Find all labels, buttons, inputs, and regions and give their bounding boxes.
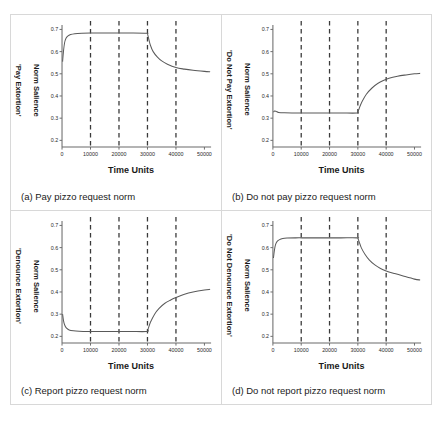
svg-text:0: 0 <box>271 151 274 157</box>
svg-text:10000: 10000 <box>83 346 98 352</box>
svg-text:0.5: 0.5 <box>51 266 58 272</box>
series-a <box>63 33 211 72</box>
panel-c: 'Denounce Extortion' Norm Salience 0.20.… <box>11 210 221 405</box>
svg-text:0.4: 0.4 <box>262 288 269 294</box>
panel-b-x-axis-title: Time Units <box>252 165 431 175</box>
svg-text:0.4: 0.4 <box>262 93 269 99</box>
svg-text:0.6: 0.6 <box>51 244 58 250</box>
svg-text:0.7: 0.7 <box>262 222 269 228</box>
panel-c-caption: (c) Report pizzo request norm <box>21 385 147 396</box>
svg-text:0.7: 0.7 <box>51 26 58 32</box>
svg-text:0.6: 0.6 <box>51 49 58 55</box>
svg-text:30000: 30000 <box>350 151 365 157</box>
series-b <box>273 73 420 113</box>
panel-c-chart-svg: 0.20.30.40.50.60.70100002000030000400005… <box>41 215 213 361</box>
panel-c-x-axis-title: Time Units <box>41 361 221 371</box>
svg-text:0.2: 0.2 <box>262 333 269 339</box>
svg-text:0.6: 0.6 <box>262 48 269 54</box>
panel-c-y-axis-label: 'Denounce Extortion' Norm Salience <box>15 211 39 361</box>
svg-text:0.5: 0.5 <box>51 71 58 77</box>
svg-text:0: 0 <box>271 346 274 352</box>
svg-text:0.3: 0.3 <box>51 115 58 121</box>
svg-text:0.7: 0.7 <box>262 26 269 32</box>
svg-text:20000: 20000 <box>112 151 127 157</box>
svg-text:10000: 10000 <box>83 151 98 157</box>
svg-text:0.5: 0.5 <box>262 71 269 77</box>
svg-text:30000: 30000 <box>350 346 365 352</box>
svg-text:0: 0 <box>61 151 64 157</box>
panel-b-chart-svg: 0.20.30.40.50.60.70100002000030000400005… <box>252 19 423 165</box>
series-c <box>63 289 211 331</box>
svg-text:40000: 40000 <box>379 346 394 352</box>
svg-text:50000: 50000 <box>407 346 422 352</box>
panel-b-caption: (b) Do not pay pizzo request norm <box>232 191 376 202</box>
panel-a-plot-area: 'Pay Extortion' Norm Salience 0.20.30.40… <box>11 15 221 167</box>
panel-d-y-axis-label: 'Do Not Denounce Extortion' Norm Salienc… <box>226 211 250 361</box>
svg-text:30000: 30000 <box>140 346 155 352</box>
panel-b-y-axis-label-line2: Norm Salience <box>243 50 252 130</box>
svg-text:0.3: 0.3 <box>262 115 269 121</box>
panel-d-x-axis-title: Time Units <box>252 361 431 371</box>
svg-text:0.6: 0.6 <box>262 244 269 250</box>
svg-text:0.2: 0.2 <box>262 137 269 143</box>
svg-text:40000: 40000 <box>379 151 394 157</box>
svg-text:20000: 20000 <box>322 346 337 352</box>
svg-text:0.3: 0.3 <box>262 311 269 317</box>
panel-c-y-axis-label-line1: 'Denounce Extortion' <box>14 248 23 324</box>
svg-text:0.5: 0.5 <box>262 266 269 272</box>
panel-a-y-axis-label-line2: Norm Salience <box>32 64 41 117</box>
panel-d: 'Do Not Denounce Extortion' Norm Salienc… <box>221 210 431 405</box>
svg-text:0.7: 0.7 <box>51 222 58 228</box>
panel-a-canvas: 0.20.30.40.50.60.70100002000030000400005… <box>41 19 213 165</box>
svg-text:50000: 50000 <box>197 346 212 352</box>
panel-b-y-axis-label: 'Do Not Pay Extortion' Norm Salience <box>226 15 250 165</box>
svg-text:40000: 40000 <box>169 346 184 352</box>
panel-d-chart-svg: 0.20.30.40.50.60.70100002000030000400005… <box>252 215 423 361</box>
svg-text:10000: 10000 <box>294 151 309 157</box>
panel-grid: 'Pay Extortion' Norm Salience 0.20.30.40… <box>11 15 431 404</box>
panel-a-x-axis-title: Time Units <box>41 165 221 175</box>
panel-a-y-axis-label-line1: 'Pay Extortion' <box>14 64 23 117</box>
panel-d-y-axis-label-line2: Norm Salience <box>243 234 252 337</box>
figure-panel-grid: 'Pay Extortion' Norm Salience 0.20.30.40… <box>10 14 432 405</box>
panel-a-chart-svg: 0.20.30.40.50.60.70100002000030000400005… <box>41 19 213 165</box>
panel-d-y-axis-label-line1: 'Do Not Denounce Extortion' <box>225 234 234 337</box>
svg-text:0.4: 0.4 <box>51 93 58 99</box>
svg-text:10000: 10000 <box>294 346 309 352</box>
panel-a-y-axis-label: 'Pay Extortion' Norm Salience <box>15 15 39 165</box>
svg-text:20000: 20000 <box>322 151 337 157</box>
panel-b-plot-area: 'Do Not Pay Extortion' Norm Salience 0.2… <box>222 15 431 167</box>
svg-text:0: 0 <box>61 346 64 352</box>
svg-text:0.2: 0.2 <box>51 333 58 339</box>
panel-b-canvas: 0.20.30.40.50.60.70100002000030000400005… <box>252 19 423 165</box>
svg-text:50000: 50000 <box>407 151 422 157</box>
panel-a: 'Pay Extortion' Norm Salience 0.20.30.40… <box>11 15 221 210</box>
panel-d-canvas: 0.20.30.40.50.60.70100002000030000400005… <box>252 215 423 361</box>
panel-c-plot-area: 'Denounce Extortion' Norm Salience 0.20.… <box>11 211 221 363</box>
panel-c-canvas: 0.20.30.40.50.60.70100002000030000400005… <box>41 215 213 361</box>
svg-text:30000: 30000 <box>140 151 155 157</box>
svg-text:0.2: 0.2 <box>51 137 58 143</box>
svg-text:40000: 40000 <box>169 151 184 157</box>
panel-d-caption: (d) Do not report pizzo request norm <box>232 385 385 396</box>
panel-d-plot-area: 'Do Not Denounce Extortion' Norm Salienc… <box>222 211 431 363</box>
svg-text:20000: 20000 <box>112 346 127 352</box>
series-d <box>273 237 420 279</box>
panel-b: 'Do Not Pay Extortion' Norm Salience 0.2… <box>221 15 431 210</box>
svg-text:0.3: 0.3 <box>51 311 58 317</box>
panel-a-caption: (a) Pay pizzo request norm <box>21 191 135 202</box>
panel-b-y-axis-label-line1: 'Do Not Pay Extortion' <box>225 50 234 130</box>
panel-c-y-axis-label-line2: Norm Salience <box>32 248 41 324</box>
svg-text:50000: 50000 <box>197 151 212 157</box>
svg-text:0.4: 0.4 <box>51 288 58 294</box>
